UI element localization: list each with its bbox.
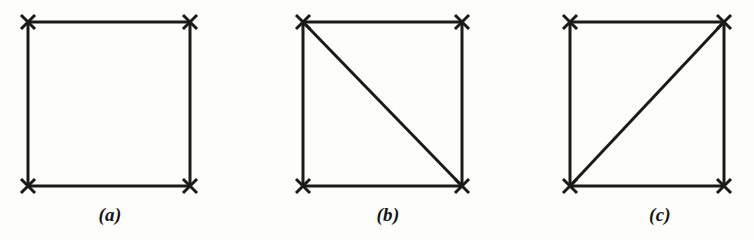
panel-a-caption: (a) (70, 204, 150, 226)
panel-b-caption: (b) (348, 204, 428, 226)
panel-c (563, 15, 731, 193)
panel-b (296, 15, 469, 193)
panel-c-caption: (c) (620, 204, 700, 226)
diagram-geometry (21, 15, 731, 193)
panel-a (21, 15, 197, 193)
panel-b-diagonal-tl-br (303, 22, 462, 186)
figure-plate: (a) (b) (c) (0, 0, 754, 240)
panel-c-diagonal-bl-tr (570, 22, 724, 186)
